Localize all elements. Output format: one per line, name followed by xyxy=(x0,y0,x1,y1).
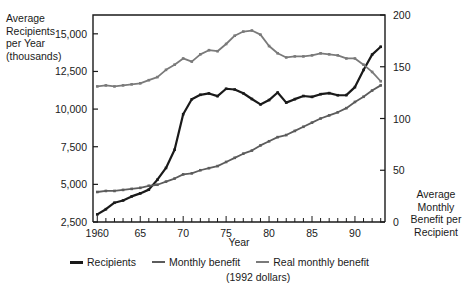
y-tick-label-left: 5,000 xyxy=(31,179,87,190)
y-tick-label-left: 2,500 xyxy=(31,217,87,228)
series-marker-1 xyxy=(113,190,116,193)
series-marker-2 xyxy=(105,84,108,87)
series-marker-0 xyxy=(379,45,382,48)
series-marker-1 xyxy=(182,173,185,176)
series-marker-0 xyxy=(130,195,133,198)
legend-label-real-monthly-benefit: Real monthly benefit xyxy=(273,256,369,268)
series-marker-2 xyxy=(354,57,357,60)
series-marker-2 xyxy=(216,50,219,53)
series-marker-1 xyxy=(319,117,322,120)
series-marker-2 xyxy=(302,55,305,58)
series-marker-2 xyxy=(268,45,271,48)
series-marker-0 xyxy=(139,192,142,195)
series-marker-2 xyxy=(113,85,116,88)
legend-swatch-monthly-benefit xyxy=(152,261,165,263)
series-marker-0 xyxy=(233,88,236,91)
series-marker-1 xyxy=(311,121,314,124)
series-marker-2 xyxy=(233,34,236,37)
series-marker-1 xyxy=(216,165,219,168)
series-marker-0 xyxy=(182,113,185,116)
series-marker-1 xyxy=(242,152,245,155)
legend-item-monthly-benefit: Monthly benefit xyxy=(152,256,240,268)
series-marker-1 xyxy=(122,189,125,192)
series-marker-2 xyxy=(165,69,168,72)
series-marker-2 xyxy=(285,56,288,59)
series-marker-2 xyxy=(242,30,245,33)
series-marker-2 xyxy=(208,49,211,52)
series-marker-1 xyxy=(165,180,168,183)
y-tick-label-right: 50 xyxy=(393,165,433,176)
series-marker-1 xyxy=(294,130,297,133)
series-marker-2 xyxy=(259,33,262,36)
y-tick-label-right: 0 xyxy=(393,217,433,228)
series-marker-0 xyxy=(354,86,357,89)
series-marker-2 xyxy=(199,53,202,56)
series-marker-1 xyxy=(354,101,357,104)
series-marker-2 xyxy=(362,63,365,66)
series-marker-2 xyxy=(225,43,228,46)
series-marker-1 xyxy=(148,184,151,187)
series-marker-1 xyxy=(345,107,348,110)
series-marker-0 xyxy=(336,94,339,97)
series-marker-1 xyxy=(285,134,288,137)
series-marker-0 xyxy=(165,167,168,170)
series-marker-2 xyxy=(371,71,374,74)
series-marker-0 xyxy=(362,69,365,72)
series-marker-0 xyxy=(345,94,348,97)
series-marker-1 xyxy=(156,183,159,186)
series-marker-2 xyxy=(173,63,176,66)
series-marker-0 xyxy=(242,92,245,95)
x-tick-label: 75 xyxy=(206,228,246,239)
series-marker-0 xyxy=(113,201,116,204)
x-tick-label: 65 xyxy=(120,228,160,239)
series-marker-0 xyxy=(311,96,314,99)
legend-item-recipients: Recipients xyxy=(70,256,136,268)
series-marker-2 xyxy=(139,82,142,85)
series-marker-1 xyxy=(328,114,331,117)
series-marker-1 xyxy=(105,190,108,193)
series-marker-0 xyxy=(208,92,211,95)
series-line-2 xyxy=(97,31,380,87)
series-marker-1 xyxy=(379,84,382,87)
series-marker-0 xyxy=(328,92,331,95)
chart-legend: Recipients Monthly benefit Real monthly … xyxy=(70,256,410,283)
series-marker-0 xyxy=(156,178,159,181)
series-marker-0 xyxy=(122,199,125,202)
y-tick-label-left: 12,500 xyxy=(31,66,87,77)
series-marker-0 xyxy=(148,188,151,191)
series-marker-1 xyxy=(190,172,193,175)
series-marker-2 xyxy=(379,80,382,83)
series-marker-2 xyxy=(328,53,331,56)
y-tick-label-right: 150 xyxy=(393,62,433,73)
series-marker-1 xyxy=(96,191,99,194)
series-marker-2 xyxy=(276,52,279,55)
series-marker-0 xyxy=(259,103,262,106)
x-tick-label: 85 xyxy=(292,228,332,239)
series-line-1 xyxy=(97,85,380,192)
legend-label-recipients: Recipients xyxy=(87,256,136,268)
series-marker-2 xyxy=(294,55,297,58)
series-marker-1 xyxy=(336,111,339,114)
x-tick-label: 80 xyxy=(249,228,289,239)
x-tick-label: 90 xyxy=(335,228,375,239)
legend-swatch-real-monthly-benefit xyxy=(256,261,269,263)
series-marker-1 xyxy=(259,144,262,147)
chart-container: Average Recipients per Year (thousands) … xyxy=(0,0,475,294)
series-marker-0 xyxy=(251,98,254,101)
y-tick-label-right: 100 xyxy=(393,114,433,125)
plot-frame xyxy=(93,15,385,222)
series-marker-0 xyxy=(268,99,271,102)
series-marker-1 xyxy=(139,187,142,190)
series-marker-1 xyxy=(225,161,228,164)
series-marker-1 xyxy=(199,169,202,172)
y-tick-label-left: 7,500 xyxy=(31,142,87,153)
series-marker-1 xyxy=(233,157,236,160)
series-marker-0 xyxy=(199,93,202,96)
series-marker-2 xyxy=(182,57,185,60)
series-marker-0 xyxy=(276,91,279,94)
x-tick-label: 70 xyxy=(163,228,203,239)
series-marker-0 xyxy=(319,93,322,96)
series-line-0 xyxy=(97,47,380,215)
series-marker-2 xyxy=(311,54,314,57)
y-tick-label-left: 15,000 xyxy=(31,29,87,40)
